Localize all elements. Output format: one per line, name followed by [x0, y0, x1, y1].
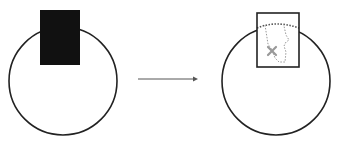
transformation-diagram [0, 0, 341, 147]
after-panel [222, 13, 330, 135]
before-panel [9, 10, 117, 135]
before-black-rect [40, 10, 80, 65]
arrow-right-icon [138, 77, 198, 82]
after-white-mask [257, 13, 299, 67]
